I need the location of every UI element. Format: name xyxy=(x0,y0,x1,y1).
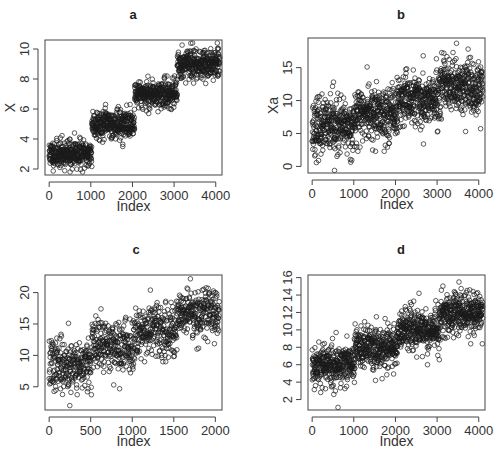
y-tick-label: 15 xyxy=(280,60,295,74)
panel-c: c Index 05001000150020005101520 xyxy=(17,242,230,449)
x-tick-label: 3000 xyxy=(160,188,189,203)
panel-d-title: d xyxy=(397,242,405,257)
panel-a: a Index X 01000200030004000246810 xyxy=(2,7,230,214)
scatter-points xyxy=(310,280,485,410)
panel-d-points xyxy=(310,280,485,410)
y-tick-label: 6 xyxy=(17,105,32,112)
x-tick-label: 1000 xyxy=(76,188,105,203)
panel-b-ylabel: Xa xyxy=(265,97,281,114)
x-tick-label: 0 xyxy=(46,188,53,203)
panel-a-points xyxy=(47,41,222,175)
x-tick-label: 2000 xyxy=(381,186,410,201)
x-tick-label: 3000 xyxy=(423,186,452,201)
y-tick-label: 14 xyxy=(280,288,295,302)
panel-b: b Index Xa 01000200030004000051015 xyxy=(265,7,493,212)
panel-b-points xyxy=(310,41,485,173)
x-tick-label: 3000 xyxy=(423,423,452,438)
x-tick-label: 1000 xyxy=(118,423,147,438)
x-tick-label: 2000 xyxy=(201,423,230,438)
y-tick-label: 5 xyxy=(280,130,295,137)
scatter-points xyxy=(47,276,222,407)
y-tick-label: 12 xyxy=(280,305,295,319)
panel-a-title: a xyxy=(129,7,137,22)
y-tick-label: 4 xyxy=(280,379,295,386)
panel-c-axes: 05001000150020005101520 xyxy=(17,275,230,438)
x-tick-label: 1000 xyxy=(339,423,368,438)
y-tick-label: 10 xyxy=(17,348,32,362)
x-tick-label: 0 xyxy=(309,423,316,438)
y-tick-label: 8 xyxy=(17,75,32,82)
panel-a-ylabel: X xyxy=(2,102,18,112)
x-tick-label: 1500 xyxy=(159,423,188,438)
y-tick-label: 10 xyxy=(280,323,295,337)
figure-canvas: a Index X 01000200030004000246810 b Inde… xyxy=(0,0,503,460)
x-tick-label: 2000 xyxy=(118,188,147,203)
x-tick-label: 0 xyxy=(46,423,53,438)
y-tick-label: 6 xyxy=(280,361,295,368)
y-tick-label: 5 xyxy=(17,383,32,390)
x-tick-label: 2000 xyxy=(381,423,410,438)
y-tick-label: 16 xyxy=(280,270,295,284)
scatter-points xyxy=(47,41,222,175)
x-tick-label: 1000 xyxy=(339,186,368,201)
y-tick-label: 0 xyxy=(280,163,295,170)
panel-d: d Index 01000200030004000246810121416 xyxy=(280,242,493,449)
y-tick-label: 8 xyxy=(280,344,295,351)
scatter-points xyxy=(310,41,485,173)
x-tick-label: 500 xyxy=(80,423,102,438)
y-tick-label: 15 xyxy=(17,317,32,331)
panel-c-title: c xyxy=(132,242,139,257)
y-tick-label: 4 xyxy=(17,135,32,142)
x-tick-label: 0 xyxy=(309,186,316,201)
panel-b-title: b xyxy=(397,7,405,22)
x-tick-label: 4000 xyxy=(464,186,493,201)
y-tick-label: 20 xyxy=(17,285,32,299)
plot-frame xyxy=(308,275,485,410)
panel-c-points xyxy=(47,276,222,407)
y-tick-label: 10 xyxy=(17,42,32,56)
y-tick-label: 2 xyxy=(280,396,295,403)
y-tick-label: 10 xyxy=(280,93,295,107)
x-tick-label: 4000 xyxy=(201,188,230,203)
x-tick-label: 4000 xyxy=(464,423,493,438)
y-tick-label: 2 xyxy=(17,165,32,172)
